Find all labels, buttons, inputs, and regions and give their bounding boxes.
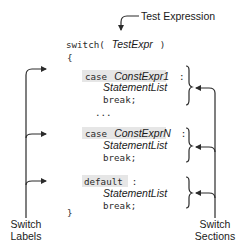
switch-sections-line2: Sections	[195, 230, 235, 241]
const-expr: ConstExprN	[114, 127, 171, 139]
colon: :	[181, 128, 187, 139]
break-1: break;	[103, 94, 136, 105]
section-arrow-n-icon	[196, 147, 215, 152]
case-keyword: case	[85, 128, 107, 139]
statement-list-n: StatementList	[103, 139, 168, 151]
default-keyword: default	[84, 176, 123, 187]
section-n-brace-icon	[186, 128, 192, 162]
switch-labels-line2: Labels	[11, 230, 42, 241]
default-label: default :	[84, 171, 137, 188]
break-default: break;	[103, 200, 136, 211]
section-arrow-default-icon	[196, 193, 215, 198]
close-paren: )	[160, 39, 166, 50]
case-label-1: case ConstExpr1 :	[85, 66, 185, 83]
statement-list-default: StatementList	[103, 187, 168, 199]
case-keyword: case	[85, 71, 107, 82]
break-n: break;	[103, 152, 136, 163]
open-brace: {	[67, 52, 73, 63]
case-label-n: case ConstExprN :	[85, 123, 186, 140]
section-default-brace-icon	[186, 177, 192, 208]
label-arrow-1-icon	[26, 69, 46, 218]
switch-statement-diagram: Test Expression switch( TestExpr ) { cas…	[0, 0, 242, 241]
ellipsis: ...	[95, 107, 112, 118]
test-expression-label: Test Expression	[141, 10, 215, 22]
colon: :	[132, 176, 138, 187]
close-brace: }	[67, 207, 73, 218]
label-arrow-n-icon	[26, 134, 46, 138]
switch-keyword: switch(	[66, 39, 105, 50]
test-expr: TestExpr	[112, 38, 154, 50]
section-1-brace-icon	[186, 66, 192, 105]
const-expr: ConstExpr1	[114, 70, 169, 82]
colon: :	[179, 71, 185, 82]
statement-list-1: StatementList	[103, 81, 168, 93]
section-arrow-1-icon	[196, 88, 215, 218]
switch-labels-line1: Switch	[11, 218, 42, 230]
label-arrow-default-icon	[26, 181, 46, 185]
switch-header: switch( TestExpr )	[66, 34, 165, 51]
test-expression-arrow-icon	[121, 16, 139, 30]
switch-sections-line1: Switch	[200, 218, 231, 230]
